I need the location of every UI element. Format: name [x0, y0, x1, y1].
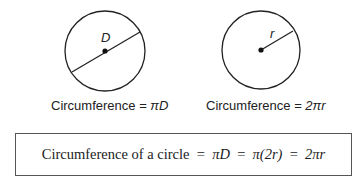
summary-prefix: Circumference of a circle = [42, 146, 212, 163]
left-caption: Circumference = πD [51, 98, 168, 113]
summary-formula-box: Circumference of a circle = πD = π(2r) =… [15, 133, 352, 176]
radius-label: r [270, 26, 274, 41]
diameter-label: D [101, 30, 110, 45]
summary-part2: π(2r) [253, 146, 283, 163]
summary-part1: πD [212, 146, 230, 163]
equals-sign: = [282, 146, 305, 163]
caption-text: Circumference = [51, 98, 150, 113]
summary-part3: 2πr [305, 146, 325, 163]
radius-circle [222, 11, 300, 89]
equals-sign: = [230, 146, 253, 163]
center-point [258, 47, 263, 52]
diameter-circle [65, 11, 145, 91]
caption-text: Circumference = [206, 98, 305, 113]
radius-line [261, 31, 293, 50]
center-point [102, 48, 107, 53]
caption-formula: πD [150, 98, 168, 113]
right-caption: Circumference = 2πr [206, 98, 326, 113]
caption-formula: 2πr [305, 98, 325, 113]
